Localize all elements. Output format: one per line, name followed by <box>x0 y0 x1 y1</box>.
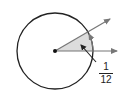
fraction-label: 1 12 <box>99 62 113 85</box>
fraction-denominator: 12 <box>99 75 113 85</box>
center-point <box>53 49 57 53</box>
fraction-numerator: 1 <box>99 62 113 72</box>
